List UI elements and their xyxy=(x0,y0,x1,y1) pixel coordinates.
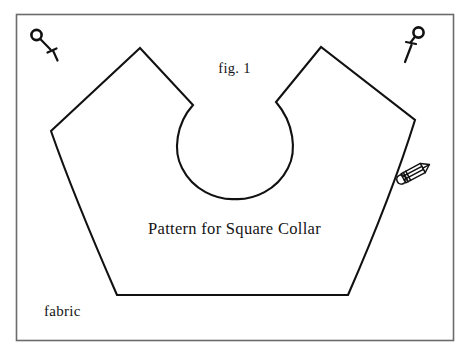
pattern-illustration-page: fig. 1 Pattern for Square Collar fabric xyxy=(0,0,469,354)
fabric-label: fabric xyxy=(44,303,81,320)
pattern-figure xyxy=(0,0,469,354)
pin-icon-left xyxy=(31,30,57,61)
collar-pattern-outline xyxy=(51,47,415,295)
pin-icon-right xyxy=(405,27,424,62)
pattern-caption-label: Pattern for Square Collar xyxy=(0,219,469,239)
figure-number-label: fig. 1 xyxy=(0,60,469,77)
